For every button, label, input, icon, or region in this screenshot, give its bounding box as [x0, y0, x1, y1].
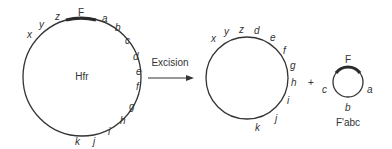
gene-g: g	[129, 101, 135, 112]
gene-j: j	[91, 136, 96, 147]
gene-b: b	[115, 22, 121, 33]
fprime-f-segment	[336, 67, 360, 73]
gene-h: h	[291, 77, 297, 88]
gene-y: y	[223, 26, 230, 37]
gene-z: z	[238, 24, 244, 35]
gene-a: a	[102, 13, 108, 24]
gene-x: x	[210, 33, 217, 44]
gene-k: k	[75, 136, 81, 147]
fprime-caption: F'abc	[336, 117, 360, 128]
excision-arrow: Excision	[148, 57, 194, 81]
gene-b: b	[345, 102, 351, 113]
gene-f: f	[283, 45, 287, 56]
excision-label: Excision	[151, 57, 188, 68]
hfr-center-label: Hfr	[75, 71, 89, 82]
gene-d: d	[254, 25, 260, 36]
gene-i: i	[108, 126, 111, 137]
fprime-f-label: F	[345, 54, 351, 65]
gene-c: c	[125, 35, 130, 46]
gene-i: i	[287, 95, 290, 106]
gene-z: z	[54, 11, 60, 22]
gene-x: x	[26, 29, 33, 40]
gene-d: d	[133, 51, 139, 62]
fprime-plasmid: F a b c F'abc	[322, 54, 373, 128]
hfr-f-segment	[66, 18, 96, 20]
hfr-chromosome: Hfr F x y z a b c d e f g h i j k	[23, 7, 142, 147]
gene-k: k	[255, 122, 261, 133]
result-chromosome: x y z d e f g h i j k	[206, 24, 297, 133]
hfr-f-label: F	[78, 7, 84, 18]
excision-diagram: Hfr F x y z a b c d e f g h i j k Excisi…	[0, 0, 392, 149]
plus-sign: +	[308, 77, 314, 88]
gene-h: h	[120, 115, 126, 126]
gene-g: g	[290, 60, 296, 71]
gene-c: c	[322, 84, 327, 95]
gene-e: e	[270, 32, 276, 43]
gene-e: e	[136, 66, 142, 77]
gene-j: j	[273, 113, 278, 124]
result-circle	[206, 37, 288, 119]
gene-y: y	[38, 19, 45, 30]
gene-a: a	[367, 84, 373, 95]
arrow-head-icon	[186, 75, 194, 81]
